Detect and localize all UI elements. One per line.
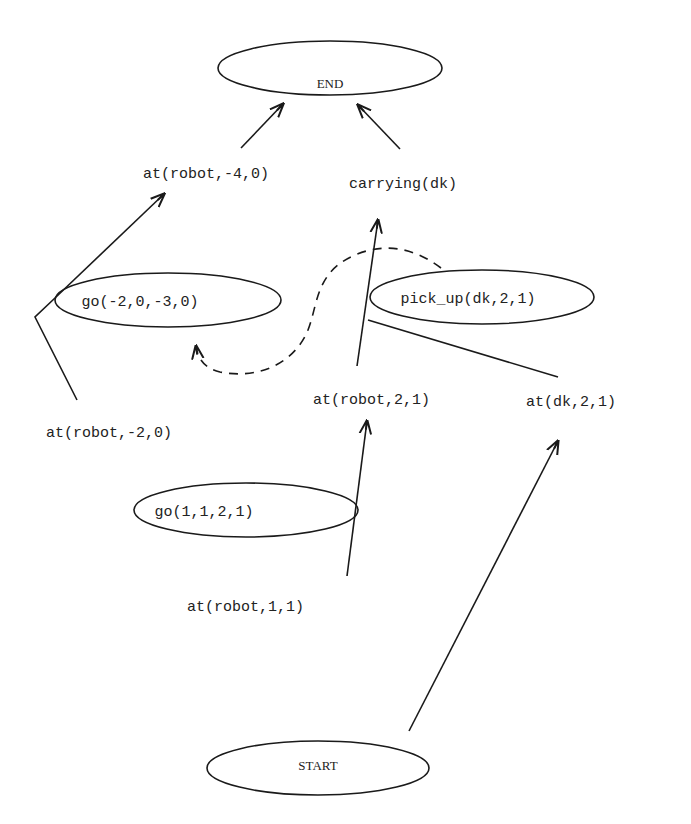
condition-at-robot-m2-0: at(robot,-2,0) (46, 425, 172, 442)
action-go-m2-0-m3-0-label: go(-2,0,-3,0) (81, 294, 198, 311)
condition-at-robot-1-1: at(robot,1,1) (187, 599, 304, 616)
condition-at-robot-m4-0: at(robot,-4,0) (143, 166, 269, 183)
edge-carrying-to-end (358, 105, 400, 149)
condition-at-dk-2-1: at(dk,2,1) (526, 394, 616, 411)
plan-diagram: END at(robot,-4,0) carrying(dk) go(-2,0,… (0, 0, 691, 824)
end-label: END (317, 76, 344, 91)
ordering-edge-pickup-to-go1 (196, 248, 441, 374)
edge-go1-to-at-robot-m4-0 (55, 194, 164, 298)
condition-carrying-dk: carrying(dk) (349, 176, 457, 193)
condition-at-robot-2-1: at(robot,2,1) (313, 392, 430, 409)
start-label: START (298, 758, 337, 773)
end-node: END (218, 41, 442, 95)
edge-at-robot-m4-0-to-end (241, 104, 283, 148)
edge-at-robot-1-1-to-at-robot-2-1 (347, 421, 367, 576)
action-go-1-1-2-1-label: go(1,1,2,1) (154, 504, 253, 521)
action-pick-up-label: pick_up(dk,2,1) (400, 291, 535, 308)
start-node: START (207, 741, 429, 795)
edge-at-dk-2-1-into-pickup (368, 320, 558, 377)
action-go-1-1-2-1: go(1,1,2,1) (134, 483, 358, 537)
edge-start-to-at-dk-2-1 (409, 441, 558, 731)
action-go-m2-0-m3-0: go(-2,0,-3,0) (55, 273, 281, 327)
action-pick-up: pick_up(dk,2,1) (370, 270, 594, 324)
edge-at-robot-2-1-to-carrying (357, 220, 378, 366)
